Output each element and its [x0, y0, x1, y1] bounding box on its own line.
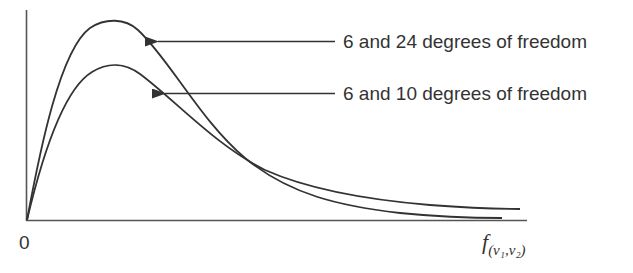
- legend-label-6-24-df: 6 and 24 degrees of freedom: [343, 32, 587, 51]
- origin-label: 0: [19, 233, 30, 252]
- x-axis-label-subscript: (ν₁,ν₂): [488, 242, 526, 258]
- x-axis-label: f(ν₁,ν₂): [482, 231, 526, 253]
- legend-label-6-10-df: 6 and 10 degrees of freedom: [343, 84, 587, 103]
